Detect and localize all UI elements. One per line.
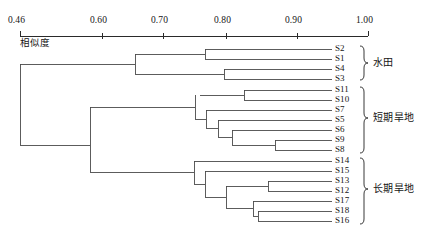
group-label-long-dryland: 长期旱地	[373, 183, 414, 194]
axis-tick-label-4: 0.90	[285, 15, 302, 25]
leaf-label-S3: S3	[335, 74, 345, 83]
leaf-label-S18: S18	[335, 206, 349, 215]
leaf-label-S9: S9	[335, 135, 345, 144]
similarity-axis	[20, 31, 368, 39]
leaf-label-S8: S8	[335, 145, 345, 154]
leaf-label-S1: S1	[335, 54, 345, 63]
bracket-paddy	[360, 46, 368, 80]
group-label-short-dryland: 短期旱地	[373, 112, 414, 123]
leaf-label-S2: S2	[335, 44, 345, 53]
leaf-label-S14: S14	[335, 156, 349, 165]
leaf-label-S4: S4	[335, 64, 345, 73]
leaf-label-S10: S10	[335, 95, 349, 104]
leaf-label-S11: S11	[335, 85, 349, 94]
axis-tick-label-2: 0.70	[151, 15, 168, 25]
dendrogram-figure: 0.46 0.60 0.70 0.80 0.90 1.00 相似度 S2 S1 …	[0, 0, 429, 238]
axis-tick-label-5: 1.00	[356, 15, 373, 25]
group-brackets	[360, 46, 368, 224]
dendrogram-canvas	[0, 0, 429, 238]
axis-tick-label-3: 0.80	[214, 15, 231, 25]
leaf-label-S17: S17	[335, 196, 349, 205]
leaf-label-S16: S16	[335, 216, 349, 225]
dendrogram-tree	[20, 49, 332, 221]
axis-title: 相似度	[20, 38, 50, 48]
bracket-long-dryland	[360, 158, 368, 224]
leaf-label-S7: S7	[335, 105, 345, 114]
bracket-short-dryland	[360, 87, 368, 153]
leaf-label-S13: S13	[335, 176, 349, 185]
leaf-label-S12: S12	[335, 186, 349, 195]
leaf-label-S15: S15	[335, 166, 349, 175]
axis-tick-label-0: 0.46	[8, 15, 25, 25]
axis-tick-label-1: 0.60	[90, 15, 107, 25]
group-label-paddy: 水田	[373, 57, 394, 68]
leaf-label-S6: S6	[335, 125, 345, 134]
leaf-label-S5: S5	[335, 115, 345, 124]
